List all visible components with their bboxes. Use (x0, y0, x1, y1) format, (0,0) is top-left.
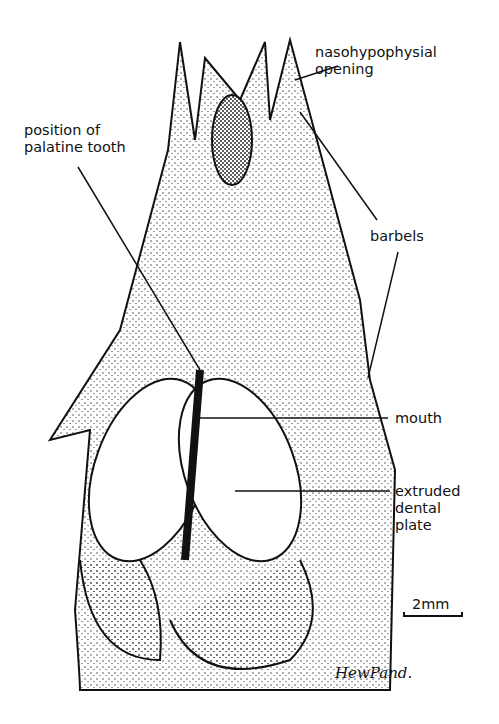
label-mouth: mouth (395, 410, 442, 427)
label-extruded-dental-plate: extruded dental plate (395, 483, 460, 534)
scale-bar-label: 2mm (412, 596, 449, 613)
leader-barbels-lower (368, 252, 398, 378)
nasal-opening (212, 95, 252, 185)
hagfish-head-illustration (0, 0, 499, 724)
label-nasohypophysial-opening: nasohypophysial opening (315, 44, 437, 78)
label-palatine-tooth: position of palatine tooth (24, 122, 126, 156)
artist-signature: HewPand. (335, 664, 412, 682)
label-barbels: barbels (370, 228, 424, 245)
